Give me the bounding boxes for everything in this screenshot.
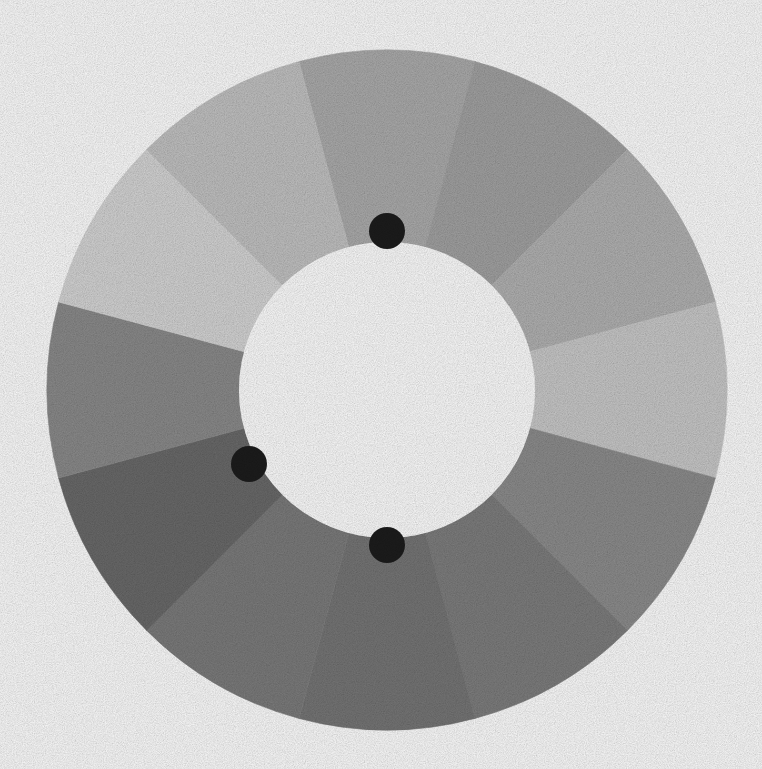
data-point-marker[interactable]: [369, 527, 405, 563]
data-point-marker[interactable]: [369, 213, 405, 249]
inner-hole: [239, 242, 535, 538]
figure-root: Grayscale Donut Wheel: [0, 0, 762, 769]
donut-wheel-chart: [0, 0, 762, 769]
data-point-marker[interactable]: [231, 446, 267, 482]
